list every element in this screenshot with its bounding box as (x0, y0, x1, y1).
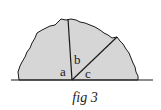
label-b: b (74, 52, 81, 67)
mound-shape (18, 19, 138, 80)
label-a: a (60, 64, 66, 79)
figure-caption: fig 3 (0, 90, 161, 106)
label-c: c (85, 66, 91, 81)
